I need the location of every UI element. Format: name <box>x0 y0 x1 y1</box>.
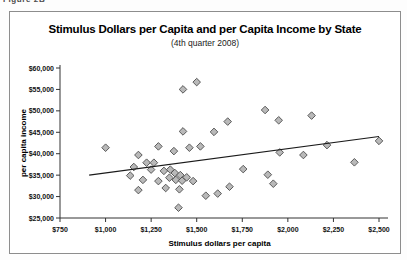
scatter-plot: $25,000$30,000$35,000$40,000$45,000$50,0… <box>10 12 400 253</box>
data-point <box>308 112 316 120</box>
x-tick-label: $1,250 <box>140 226 162 234</box>
y-tick-label: $50,000 <box>29 107 54 115</box>
data-point <box>135 186 143 194</box>
x-tick-label: $2,500 <box>368 226 390 234</box>
screenshot-root: { "figure_label": "Figure 2B", "chart_da… <box>0 0 407 260</box>
data-point <box>224 118 232 126</box>
data-point <box>162 184 170 192</box>
y-tick-label: $55,000 <box>29 86 54 94</box>
data-point <box>275 117 283 125</box>
trend-line <box>89 137 379 176</box>
y-tick-label: $25,000 <box>29 215 54 223</box>
data-point <box>126 172 134 180</box>
x-tick-label: $1,000 <box>95 226 117 234</box>
data-point <box>102 144 110 152</box>
data-point <box>189 177 197 185</box>
data-point <box>202 192 210 200</box>
y-tick-label: $35,000 <box>29 172 54 180</box>
data-point <box>270 180 278 188</box>
y-tick-label: $60,000 <box>29 65 54 73</box>
y-tick-label: $45,000 <box>29 129 54 137</box>
x-tick-label: $2,000 <box>277 226 299 234</box>
data-point <box>155 177 163 185</box>
data-point <box>239 165 247 173</box>
x-axis-title: Stimulus dollars per capita <box>60 239 379 248</box>
data-point <box>176 186 184 194</box>
data-point <box>264 171 272 179</box>
data-point <box>139 176 147 184</box>
y-tick-label: $30,000 <box>29 193 54 201</box>
y-axis-title: per capita income <box>19 109 28 177</box>
figure-label: Figure 2B <box>3 0 45 4</box>
data-point <box>261 106 269 114</box>
data-point <box>214 190 222 198</box>
x-tick-label: $2,250 <box>323 226 345 234</box>
x-tick-label: $1,500 <box>186 226 208 234</box>
data-point <box>193 78 201 86</box>
data-point <box>135 151 143 159</box>
data-point <box>351 159 359 167</box>
data-point <box>170 147 178 155</box>
data-point <box>175 204 183 212</box>
x-tick-label: $750 <box>52 226 68 234</box>
data-point <box>375 137 383 145</box>
data-point <box>210 128 218 136</box>
data-point <box>323 141 331 149</box>
y-tick-label: $40,000 <box>29 150 54 158</box>
data-point <box>143 159 151 167</box>
data-point <box>226 183 234 191</box>
data-point <box>300 151 308 159</box>
data-point <box>179 128 187 136</box>
data-point <box>155 143 163 151</box>
figure-label-clip: Figure 2B <box>0 0 140 7</box>
data-point <box>197 143 205 151</box>
x-tick-label: $1,750 <box>232 226 254 234</box>
data-point <box>160 167 168 175</box>
chart-panel: Stimulus Dollars per Capita and per Capi… <box>9 11 401 254</box>
data-point <box>179 86 187 94</box>
data-point <box>186 144 194 152</box>
